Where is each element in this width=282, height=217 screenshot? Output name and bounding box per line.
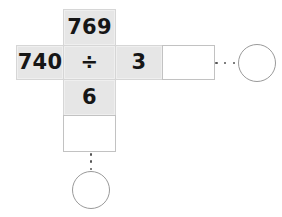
cell-dividend[interactable]: 740 [16, 45, 64, 80]
vertical-ellipsis-icon [88, 153, 94, 170]
ellipsis-dot [90, 160, 93, 163]
circle-quotient-answer[interactable] [238, 44, 276, 82]
cell-product-above[interactable]: 769 [63, 9, 116, 46]
circle-remainder-answer[interactable] [72, 171, 110, 209]
cell-product-below[interactable]: 6 [63, 79, 116, 116]
cell-quotient-input[interactable] [162, 45, 215, 80]
ellipsis-dot [215, 62, 218, 65]
ellipsis-dot [90, 153, 93, 156]
cell-divisor[interactable]: 3 [115, 45, 163, 80]
ellipsis-dot [90, 168, 93, 171]
ellipsis-dot [233, 62, 236, 65]
cell-remainder-input[interactable] [63, 115, 116, 152]
worksheet-canvas: 769 740 ÷ 3 6 [0, 0, 282, 217]
horizontal-ellipsis-icon [215, 56, 235, 70]
ellipsis-dot [224, 62, 227, 65]
cell-division-operator: ÷ [63, 45, 116, 80]
